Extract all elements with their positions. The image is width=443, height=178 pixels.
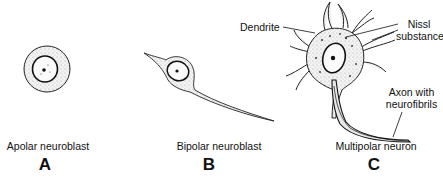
apolar-neuroblast-cell (24, 46, 70, 92)
panel-letter-b: B (203, 155, 215, 175)
panel-letter-c: C (368, 155, 380, 175)
nissl-substance-label: Nissl substance (396, 18, 442, 42)
nissl-label-line2: substance (396, 30, 442, 42)
axon-label-line2: neurofibrils (380, 98, 443, 110)
axon-label-line1: Axon with (380, 86, 443, 98)
multipolar-neuron-cell (286, 2, 410, 142)
caption-multipolar: Multipolar neuron (335, 140, 416, 152)
neuron-development-diagram: Dendrite Nissl substance Axon with neuro… (0, 0, 443, 178)
caption-apolar: Apolar neuroblast (7, 140, 89, 152)
nissl-label-line1: Nissl (396, 18, 442, 30)
panel-letter-a: A (39, 155, 51, 175)
bipolar-neuroblast-cell (144, 53, 274, 121)
axon-label: Axon with neurofibrils (380, 86, 443, 110)
caption-bipolar: Bipolar neuroblast (177, 140, 262, 152)
dendrite-label: Dendrite (240, 21, 280, 33)
